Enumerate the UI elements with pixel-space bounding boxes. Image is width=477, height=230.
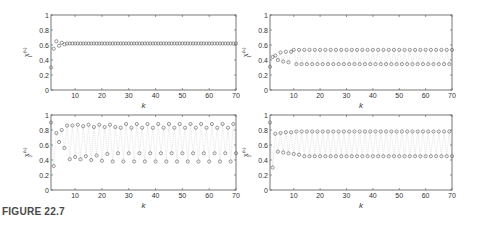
y-tick-label: 0.8 <box>258 127 268 134</box>
x-tick-label: 10 <box>290 92 298 99</box>
x-tick-label: 70 <box>448 192 456 199</box>
y-tick-label: 1 <box>264 112 268 119</box>
x-tick-label: 50 <box>178 92 186 99</box>
data-point <box>55 40 58 43</box>
x-axis-label: k <box>359 101 364 110</box>
x-tick-label: 70 <box>232 92 240 99</box>
y-tick-label: 0.4 <box>39 57 49 64</box>
connector-lines <box>270 123 452 168</box>
data-markers <box>49 40 237 69</box>
axes-frame <box>270 15 452 90</box>
x-tick-label: 30 <box>343 92 351 99</box>
x-tick-label: 40 <box>152 192 160 199</box>
chart-panel-bottom-left: 1020304050607000.20.40.60.81kx(k)2 <box>22 112 240 211</box>
x-tick-label: 70 <box>448 92 456 99</box>
y-tick-label: 0.8 <box>39 127 49 134</box>
y-axis-label: x(k)2 <box>241 147 252 157</box>
x-tick-label: 60 <box>422 92 430 99</box>
axes-frame <box>270 115 452 190</box>
x-tick-label: 40 <box>369 92 377 99</box>
y-tick-label: 0.2 <box>39 172 49 179</box>
data-point <box>57 44 60 47</box>
x-tick-label: 40 <box>152 92 160 99</box>
y-tick-label: 0.8 <box>39 27 49 34</box>
data-point <box>52 47 55 50</box>
data-markers <box>268 48 453 68</box>
chart-panel-top-left: 1020304050607000.20.40.60.81kx(k)1 <box>22 12 240 111</box>
y-tick-label: 0 <box>264 187 268 194</box>
y-axis-label: x(k)1 <box>241 47 252 57</box>
x-axis-label: k <box>142 101 147 110</box>
x-axis-label: k <box>359 201 364 210</box>
y-tick-label: 1 <box>45 112 49 119</box>
x-tick-label: 70 <box>232 192 240 199</box>
x-tick-label: 10 <box>71 92 79 99</box>
axes-frame <box>51 15 236 90</box>
x-tick-label: 40 <box>369 192 377 199</box>
chart-panel-bottom-right: 1020304050607000.20.40.60.81kx(k)2 <box>241 112 456 211</box>
chart-panel-top-right: 1020304050607000.20.40.60.81kx(k)1 <box>241 12 456 111</box>
x-tick-label: 50 <box>178 192 186 199</box>
x-tick-label: 20 <box>316 92 324 99</box>
y-tick-label: 0 <box>264 87 268 94</box>
x-axis-label: k <box>142 201 147 210</box>
x-tick-label: 30 <box>343 192 351 199</box>
figure-caption: FIGURE 22.7 <box>2 205 65 217</box>
y-tick-label: 0.2 <box>258 72 268 79</box>
y-tick-label: 0.6 <box>39 42 49 49</box>
y-axis-label: x(k)2 <box>22 147 33 157</box>
y-tick-label: 0.4 <box>258 157 268 164</box>
x-tick-label: 20 <box>98 192 106 199</box>
y-tick-label: 1 <box>45 12 49 19</box>
x-tick-label: 60 <box>422 192 430 199</box>
y-tick-label: 0 <box>45 87 49 94</box>
x-tick-label: 50 <box>395 192 403 199</box>
x-tick-label: 60 <box>205 92 213 99</box>
data-markers <box>268 121 453 169</box>
x-tick-label: 20 <box>316 192 324 199</box>
y-tick-label: 0.2 <box>39 72 49 79</box>
y-tick-label: 0.6 <box>39 142 49 149</box>
y-tick-label: 1 <box>264 12 268 19</box>
figure-canvas: 1020304050607000.20.40.60.81kx(k)1102030… <box>0 0 477 230</box>
y-tick-label: 0.6 <box>258 42 268 49</box>
y-axis-label: x(k)1 <box>22 47 33 57</box>
y-tick-label: 0.6 <box>258 142 268 149</box>
x-tick-label: 30 <box>125 92 133 99</box>
y-tick-label: 0.4 <box>258 57 268 64</box>
x-tick-label: 30 <box>125 192 133 199</box>
y-tick-label: 0.8 <box>258 27 268 34</box>
x-tick-label: 60 <box>205 192 213 199</box>
y-tick-label: 0.2 <box>258 172 268 179</box>
y-tick-label: 0.4 <box>39 157 49 164</box>
x-tick-label: 20 <box>98 92 106 99</box>
y-tick-label: 0 <box>45 187 49 194</box>
x-tick-label: 10 <box>71 192 79 199</box>
x-tick-label: 50 <box>395 92 403 99</box>
x-tick-label: 10 <box>290 192 298 199</box>
